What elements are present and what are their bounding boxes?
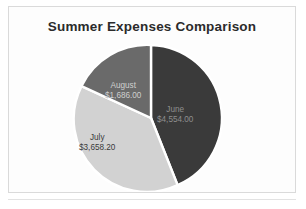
pie-label-june: June $4,554.00 [157,105,193,124]
chart-title: Summer Expenses Comparison [9,19,295,34]
pie-label-july-value: $3,658.20 [79,143,115,153]
pie-label-august-value: $1,686.00 [105,91,141,101]
pie-chart-svg [71,43,231,193]
pie-label-august-name: August [105,81,141,91]
pie-chart [71,43,231,193]
pie-label-june-name: June [157,105,193,115]
bottom-divider [8,199,296,200]
pie-label-june-value: $4,554.00 [157,115,193,125]
chart-container: Summer Expenses Comparison June $4,554.0… [8,6,296,193]
pie-label-july-name: July [79,133,115,143]
pie-label-august: August $1,686.00 [105,81,141,100]
pie-label-july: July $3,658.20 [79,133,115,152]
